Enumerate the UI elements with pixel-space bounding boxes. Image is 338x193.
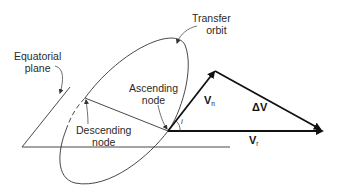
descending-node-leader [86,100,88,124]
delta-v-vector [215,71,320,129]
ascending-node-label: Ascending node [129,82,178,106]
vr-label: Vr [249,134,259,147]
inclination-angle-label: i [181,117,183,126]
vr-subscript: r [256,140,258,147]
ascending-node-label-line2: node [129,94,178,106]
equatorial-plane-label-line2: plane [14,62,61,74]
equatorial-plane-label: Equatorial plane [14,50,61,74]
descending-node-label-line1: Descending [76,124,131,136]
transfer-orbit-label: Transfer orbit [192,12,231,36]
descending-node-label-line2: node [76,136,131,148]
inclination-angle-arc [176,121,180,131]
equatorial-plane-label-line1: Equatorial [14,50,61,62]
transfer-orbit-label-line1: Transfer [192,12,231,24]
inclination-symbol: i [181,117,183,126]
vn-label: Vn [204,94,215,107]
vn-subscript: n [211,100,215,107]
delta-v-label: ΔV [252,101,267,113]
ascending-node-label-line1: Ascending [129,82,178,94]
transfer-orbit-ellipse [60,38,188,184]
transfer-orbit-label-line2: orbit [192,24,231,36]
ascending-node-leader [158,105,167,129]
descending-node-label: Descending node [76,124,131,148]
delta-v-symbol: ΔV [252,101,267,113]
